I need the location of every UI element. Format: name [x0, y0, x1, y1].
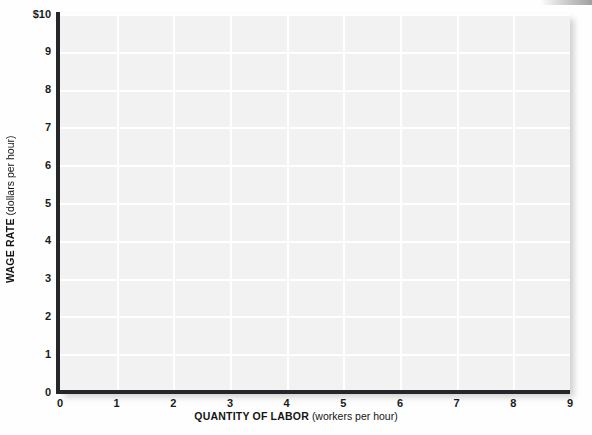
- x-axis-tick-label: 9: [560, 398, 580, 409]
- y-axis-tick-label: $10: [33, 9, 51, 20]
- y-axis-tick-label: 7: [45, 122, 51, 133]
- x-axis-tick-label: 0: [50, 398, 70, 409]
- gridline-horizontal: [60, 241, 570, 243]
- gridline-horizontal: [60, 14, 570, 16]
- x-axis-tick-label: 7: [447, 398, 467, 409]
- x-axis-title-main: QUANTITY OF LABOR: [194, 410, 309, 422]
- x-axis-line: [56, 390, 570, 394]
- gridline-horizontal: [60, 354, 570, 356]
- plot-area: [60, 14, 570, 392]
- gridline-horizontal: [60, 279, 570, 281]
- x-axis-tick-label: 1: [107, 398, 127, 409]
- x-axis-tick-label: 4: [277, 398, 297, 409]
- gridline-horizontal: [60, 52, 570, 54]
- y-axis-title: WAGE RATE (dollars per hour): [4, 134, 24, 284]
- x-axis-tick-label: 6: [390, 398, 410, 409]
- x-axis-tick-label: 3: [220, 398, 240, 409]
- page-corner-mark: [540, 0, 592, 5]
- y-axis-tick-label: 1: [45, 349, 51, 360]
- gridline-horizontal: [60, 127, 570, 129]
- gridline-horizontal: [60, 90, 570, 92]
- y-axis-title-unit: (dollars per hour): [4, 135, 16, 215]
- y-axis-tick-label: 3: [45, 273, 51, 284]
- gridline-horizontal: [60, 203, 570, 205]
- y-axis-tick-label: 2: [45, 311, 51, 322]
- chart-figure: 0123456789$10 0123456789 WAGE RATE (doll…: [0, 0, 592, 435]
- y-axis-line: [56, 12, 60, 394]
- y-axis-tick-label: 6: [45, 160, 51, 171]
- x-axis-title: QUANTITY OF LABOR (workers per hour): [0, 410, 592, 422]
- y-axis-tick-label: 9: [45, 46, 51, 57]
- y-axis-tick-label: 4: [45, 235, 51, 246]
- plot-wrapper: [60, 14, 570, 392]
- x-axis-title-unit: (workers per hour): [312, 410, 398, 422]
- x-axis-tick-label: 2: [163, 398, 183, 409]
- y-axis-title-main: WAGE RATE: [4, 218, 16, 283]
- x-axis-tick-label: 8: [503, 398, 523, 409]
- gridline-horizontal: [60, 165, 570, 167]
- y-axis-tick-label: 0: [45, 387, 51, 398]
- x-axis-tick-label: 5: [333, 398, 353, 409]
- y-axis-tick-label: 5: [45, 198, 51, 209]
- y-axis-tick-label: 8: [45, 84, 51, 95]
- gridline-horizontal: [60, 316, 570, 318]
